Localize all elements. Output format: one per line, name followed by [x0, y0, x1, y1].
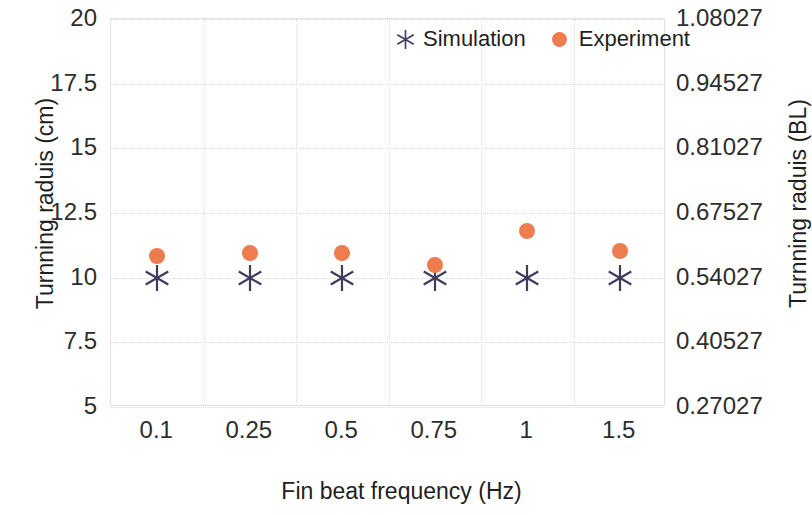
data-point-experiment — [334, 245, 350, 261]
asterisk-marker-icon — [144, 265, 170, 291]
gridline-horizontal — [111, 342, 664, 343]
gridline-horizontal — [111, 213, 664, 214]
data-point-experiment — [612, 243, 628, 259]
gridline-vertical — [296, 19, 297, 405]
x-axis-tick-label: 0.1 — [140, 418, 173, 442]
y-axis-left-tick-label: 7.5 — [64, 329, 97, 353]
data-point-experiment — [427, 257, 443, 273]
gridline-vertical — [481, 19, 482, 405]
circle-marker-icon — [242, 245, 258, 261]
legend-item-label: Experiment — [579, 26, 690, 52]
chart-legend: SimulationExperiment — [396, 26, 690, 52]
asterisk-marker-icon — [514, 265, 540, 291]
data-point-simulation — [329, 265, 355, 291]
x-axis-tick-label: 1 — [520, 418, 533, 442]
legend-circle-marker-icon — [552, 29, 572, 49]
y-axis-left-title: Turnning raduis (cm) — [32, 54, 59, 354]
legend-item-label: Simulation — [423, 26, 526, 52]
y-axis-right-title: Turnning raduis (BL) — [785, 54, 812, 354]
x-axis-tick-label: 1.5 — [602, 418, 635, 442]
legend-asterisk-marker-icon — [396, 29, 416, 49]
gridline-vertical — [204, 19, 205, 405]
y-axis-left-tick-label: 5 — [84, 394, 97, 418]
legend-item: Simulation — [396, 26, 526, 52]
data-point-simulation — [237, 265, 263, 291]
data-point-simulation — [144, 265, 170, 291]
y-axis-right-tick-label: 0.54027 — [676, 265, 763, 289]
gridline-horizontal — [111, 278, 664, 279]
gridline-horizontal — [111, 407, 664, 408]
data-point-simulation — [514, 265, 540, 291]
y-axis-right-tick-label: 0.67527 — [676, 200, 763, 224]
asterisk-marker-icon — [607, 265, 633, 291]
plot-area — [110, 18, 665, 406]
y-axis-right-tick-label: 0.94527 — [676, 71, 763, 95]
y-axis-left-tick-label: 10 — [70, 265, 97, 289]
gridline-vertical — [389, 19, 390, 405]
data-point-experiment — [519, 223, 535, 239]
gridline-horizontal — [111, 84, 664, 85]
y-axis-right-tick-label: 0.81027 — [676, 135, 763, 159]
legend-item: Experiment — [552, 26, 690, 52]
asterisk-marker-icon — [237, 265, 263, 291]
circle-marker-icon — [149, 248, 165, 264]
data-point-simulation — [607, 265, 633, 291]
data-point-experiment — [149, 248, 165, 264]
gridline-horizontal — [111, 19, 664, 20]
circle-marker-icon — [334, 245, 350, 261]
y-axis-right-ticks: 0.270270.405270.540270.675270.810270.945… — [676, 18, 796, 406]
x-axis-tick-label: 0.75 — [410, 418, 457, 442]
data-point-experiment — [242, 245, 258, 261]
asterisk-marker-icon — [329, 265, 355, 291]
y-axis-left-tick-label: 20 — [70, 6, 97, 30]
x-axis-tick-label: 0.25 — [225, 418, 272, 442]
y-axis-left-tick-label: 15 — [70, 135, 97, 159]
gridline-vertical — [574, 19, 575, 405]
circle-marker-icon — [519, 223, 535, 239]
circle-marker-icon — [612, 243, 628, 259]
circle-marker-icon — [427, 257, 443, 273]
gridline-horizontal — [111, 148, 664, 149]
y-axis-right-tick-label: 0.40527 — [676, 329, 763, 353]
y-axis-right-tick-label: 0.27027 — [676, 394, 763, 418]
x-axis-title: Fin beat frequency (Hz) — [0, 478, 803, 505]
x-axis-tick-label: 0.5 — [325, 418, 358, 442]
